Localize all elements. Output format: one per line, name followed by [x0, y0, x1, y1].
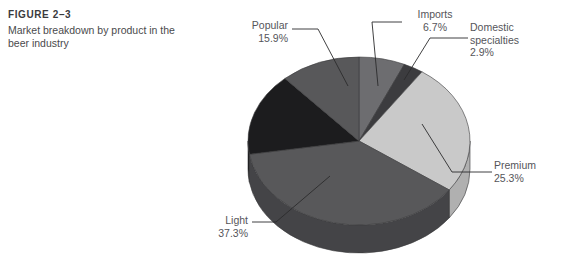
pie-label-imports-percent: 6.7% [404, 21, 466, 34]
source-note [236, 256, 536, 267]
pie-label-domestic-specialties-percent: 2.9% [470, 46, 556, 59]
pie-label-domestic-specialties-name-line1: Domestic [470, 21, 556, 34]
pie-label-premium: Premium 25.3% [494, 159, 560, 184]
pie-label-imports: Imports 6.7% [404, 8, 466, 33]
pie-label-popular-percent: 15.9% [214, 32, 288, 45]
pie-label-light-percent: 37.3% [186, 227, 248, 240]
pie-label-imports-name: Imports [404, 8, 466, 21]
pie-label-popular-name: Popular [214, 19, 288, 32]
pie-label-premium-percent: 25.3% [494, 172, 560, 185]
pie-label-domestic-specialties-name-line2: specialties [470, 34, 556, 47]
pie-label-premium-name: Premium [494, 159, 560, 172]
figure-page: FIGURE 2–3 Market breakdown by product i… [0, 0, 564, 270]
pie-label-light: Light 37.3% [186, 214, 248, 239]
pie-label-light-name: Light [186, 214, 248, 227]
pie-top-faces [248, 57, 470, 225]
pie-label-domestic-specialties: Domestic specialties 2.9% [470, 21, 556, 59]
pie-label-popular: Popular 15.9% [214, 19, 288, 44]
